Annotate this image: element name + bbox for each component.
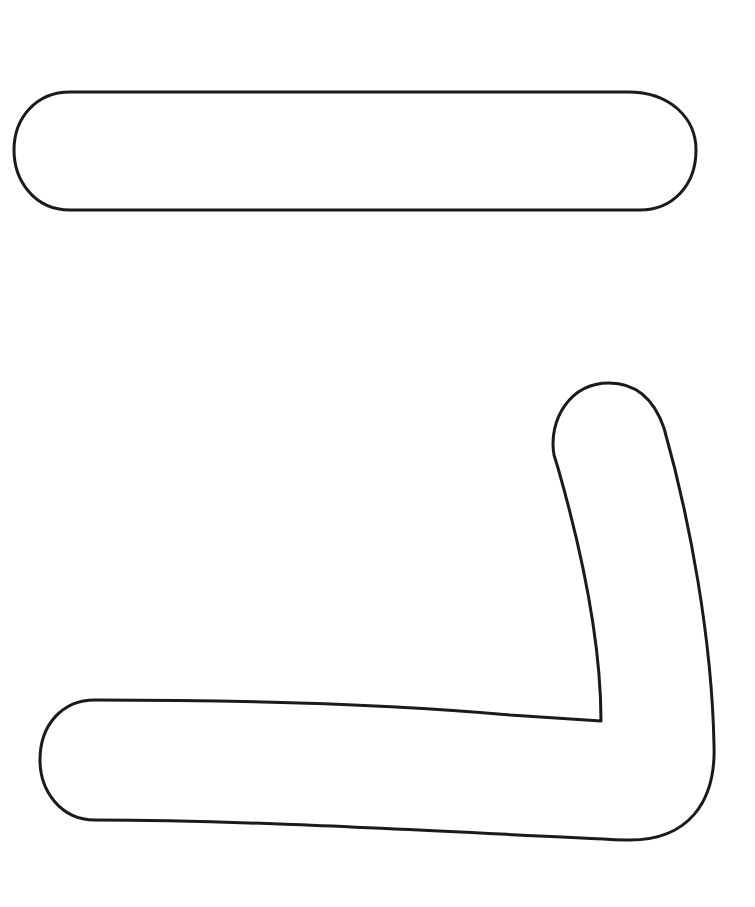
diagram-canvas	[0, 0, 755, 907]
l-shape-outline	[40, 383, 714, 840]
horizontal-pill-shape	[14, 92, 696, 210]
